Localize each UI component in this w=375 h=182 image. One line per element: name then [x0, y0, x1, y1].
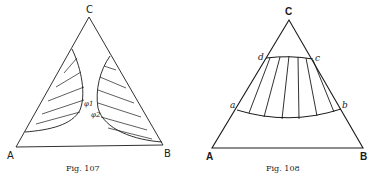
- fig108-vertex-b-label: B: [360, 152, 367, 162]
- diagrams-canvas: [0, 0, 375, 182]
- fig108-arc-ab: [237, 109, 341, 118]
- fig108-caption: Fig. 108: [266, 164, 300, 173]
- fig108-point-b-label: b: [342, 101, 348, 110]
- fig107-vertex-a-label: A: [7, 151, 14, 161]
- fig108-point-c-label: c: [315, 54, 320, 63]
- fig108-point-d-label: d: [258, 53, 264, 62]
- fig108-triangle: [212, 20, 363, 148]
- fig107-binodal-right: [97, 56, 162, 142]
- fig108-diagram: [212, 20, 363, 148]
- fig107-caption: Fig. 107: [66, 164, 100, 173]
- fig107-vertex-b-label: B: [164, 149, 171, 159]
- fig107-vertex-c-label: C: [86, 5, 93, 15]
- fig108-vertex-a-label: A: [206, 152, 213, 162]
- fig107-triangle: [16, 17, 163, 147]
- fig108-point-a-label: a: [230, 101, 235, 110]
- fig107-tie-lines-right: [98, 66, 152, 139]
- fig108-vertex-c-label: C: [285, 7, 292, 17]
- fig107-phase-label-phi2: φ2: [91, 111, 100, 119]
- fig107-phase-label-phi1: φ1: [84, 100, 93, 108]
- fig107-diagram: [16, 17, 163, 147]
